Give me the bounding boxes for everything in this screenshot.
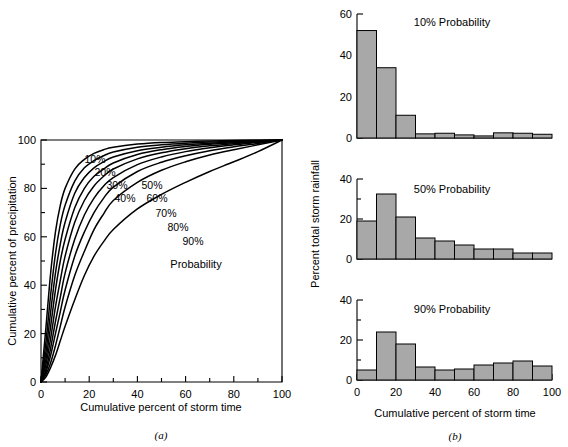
hist-x-tick-label: 80 [507,386,519,398]
histogram-bar [357,221,377,259]
panel-a-curves [41,140,282,382]
histogram-bar [396,344,416,380]
hist-middle-bars [357,194,552,259]
hist-y-tick-label: 40 [340,173,352,185]
hist-y-tick-label: 0 [346,132,352,144]
histogram-bar [494,363,514,380]
histogram-bar [377,68,397,138]
histogram-bar [513,133,533,138]
hist-x-tick-label: 100 [543,386,561,398]
hist-y-tick-label: 40 [340,49,352,61]
histogram-bar [513,253,533,259]
histogram-bar [377,194,397,259]
curve-label-60pct: 60% [146,192,167,204]
panel-a-y-tick-label: 60 [24,231,36,243]
hist-y-tick-label: 60 [340,8,352,20]
histogram-bar [435,370,455,380]
panel-b-y-axis-title: Percent total storm rainfall [309,160,321,288]
histogram-bar [533,366,553,380]
panel-a-probability-annotation: Probability [170,258,222,270]
histogram-bar [455,369,475,380]
panel-a-x-axis-title: Cumulative percent of storm time [80,401,241,413]
hist-bottom-bars [357,332,552,380]
panel-a-x-tick-label: 40 [131,388,143,400]
histogram-90-percent: 02040 020406080100 90% Probability [340,294,561,398]
hist-y-tick-label: 20 [340,91,352,103]
panel-a-y-tick-label: 100 [18,134,36,146]
panel-a-x-tick-label: 100 [273,388,291,400]
panel-b-x-axis-title: Cumulative percent of storm time [374,407,535,419]
histogram-bar [494,249,514,259]
curve-label-20pct: 20% [94,166,115,178]
histogram-bar [513,361,533,380]
hist-top-title: 10% Probability [414,16,491,28]
hist-y-tick-label: 40 [340,294,352,306]
histogram-50-percent: 02040 50% Probability Percent total stor… [309,160,552,288]
panel-a-y-tick-label: 0 [30,376,36,388]
histogram-bar [533,253,553,259]
hist-y-tick-label: 20 [340,213,352,225]
curve-label-40pct: 40% [114,192,135,204]
hist-y-tick-label: 0 [346,374,352,386]
histogram-bar [396,217,416,259]
hist-bottom-title: 90% Probability [414,303,491,315]
figure-container: 020406080100 020406080100 10%20%30%40%50… [0,0,568,447]
hist-x-tick-label: 60 [468,386,480,398]
hist-y-tick-label: 20 [340,334,352,346]
probability-curve-20pct [41,140,282,382]
histogram-bar [357,370,377,380]
curve-label-90pct: 90% [182,235,203,247]
histogram-bar [416,134,436,138]
hist-x-tick-label: 40 [429,386,441,398]
histogram-bar [533,134,553,138]
histogram-bar [377,332,397,380]
hist-middle-title: 50% Probability [414,183,491,195]
panel-b-caption: (b) [449,430,462,443]
histogram-10-percent: 0204060 10% Probability [340,8,552,144]
panel-a-y-tick-label: 40 [24,279,36,291]
panel-a-x-tick-label: 60 [179,388,191,400]
curve-label-10pct: 10% [84,153,105,165]
curve-label-50pct: 50% [141,179,162,191]
panel-a-y-ticks: 020406080100 [18,134,47,388]
histogram-bar [474,249,494,259]
histogram-bar [455,135,475,138]
histogram-bar [357,31,377,138]
panel-a-y-tick-label: 20 [24,328,36,340]
hist-x-tick-label: 0 [354,386,360,398]
histogram-bar [474,365,494,380]
hist-y-tick-label: 0 [346,253,352,265]
panel-a-y-tick-label: 80 [24,182,36,194]
histogram-bar [435,241,455,259]
panel-b: 0204060 10% Probability 02040 50% Probab… [309,8,561,443]
histogram-bar [455,245,475,259]
panel-a-y-axis-title: Cumulative percent of precipitation [6,176,18,345]
curve-label-30pct: 30% [106,179,127,191]
histogram-bar [474,136,494,138]
histogram-bar [494,133,514,138]
panel-a: 020406080100 020406080100 10%20%30%40%50… [6,134,291,442]
histogram-bar [416,238,436,259]
panel-a-x-tick-label: 20 [83,388,95,400]
panel-a-x-tick-label: 0 [38,388,44,400]
curve-label-70pct: 70% [155,207,176,219]
panel-a-x-tick-label: 80 [228,388,240,400]
panel-a-caption: (a) [155,429,168,442]
histogram-bar [396,115,416,138]
panel-a-x-ticks: 020406080100 [38,376,291,400]
histogram-bar [435,133,455,138]
hist-top-bars [357,31,552,138]
curve-label-80pct: 80% [167,221,188,233]
figure-svg: 020406080100 020406080100 10%20%30%40%50… [0,0,568,447]
histogram-bar [416,367,436,380]
hist-x-tick-label: 20 [390,386,402,398]
